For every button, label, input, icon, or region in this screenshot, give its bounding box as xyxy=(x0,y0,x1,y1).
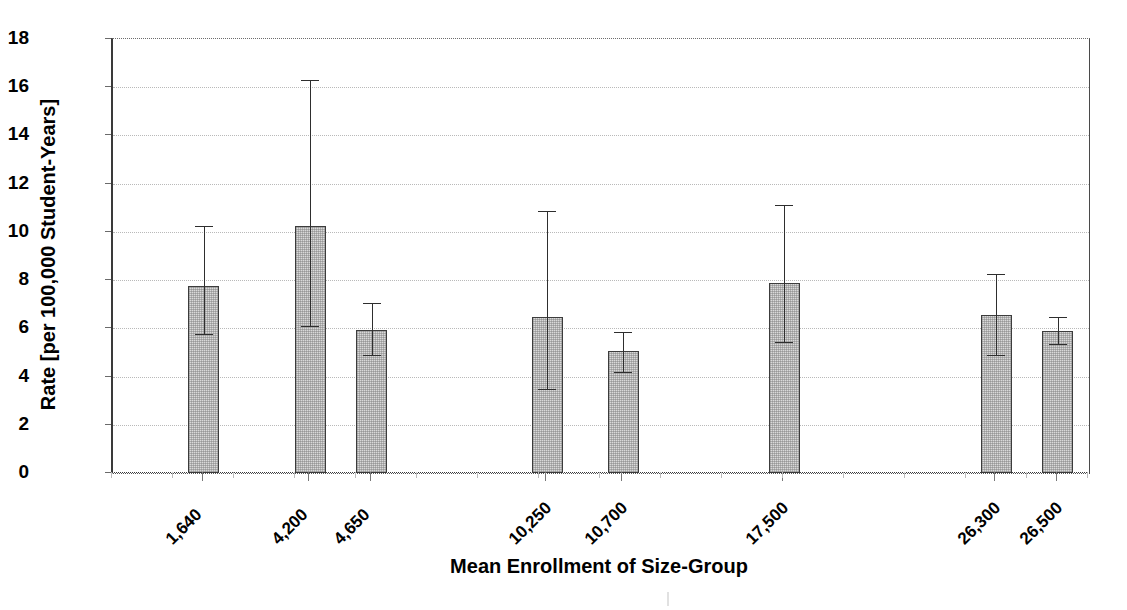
error-bar-cap xyxy=(363,355,381,356)
y-axis-title: Rate [per 100,000 Student-Years] xyxy=(37,25,60,485)
bar-chart: Rate [per 100,000 Student-Years] 0246810… xyxy=(0,0,1127,610)
x-axis-minor-tick xyxy=(599,472,600,478)
error-bar-cap xyxy=(301,80,319,81)
x-tick-label: 10,700 xyxy=(581,498,632,549)
x-axis-minor-tick xyxy=(1026,472,1027,478)
x-tick-mark xyxy=(994,472,995,481)
gridline xyxy=(113,425,1089,426)
error-bar-cap xyxy=(987,355,1005,356)
x-tick-label: 4,650 xyxy=(330,505,374,549)
error-bar-cap xyxy=(1049,317,1067,318)
x-axis-minor-tick xyxy=(233,472,234,478)
error-bar-cap xyxy=(987,274,1005,275)
y-tick-label: 14 xyxy=(0,123,29,145)
x-tick-mark xyxy=(202,472,203,481)
x-tick-mark xyxy=(1056,472,1057,481)
x-axis-minor-tick xyxy=(721,472,722,478)
x-tick-label: 4,200 xyxy=(268,505,312,549)
error-bar-line xyxy=(310,80,311,326)
y-tick-label: 4 xyxy=(0,365,29,387)
error-bar-cap xyxy=(1049,344,1067,345)
error-bar-line xyxy=(623,332,624,372)
y-tick-label: 18 xyxy=(0,27,29,49)
error-bar-cap xyxy=(614,372,632,373)
x-axis-minor-tick xyxy=(1087,472,1088,478)
gridline xyxy=(113,135,1089,136)
error-bar-line xyxy=(784,205,785,341)
x-tick-label: 26,300 xyxy=(954,498,1005,549)
bar xyxy=(1042,331,1073,473)
y-tick-label: 2 xyxy=(0,413,29,435)
x-tick-label: 17,500 xyxy=(742,498,793,549)
x-axis-title: Mean Enrollment of Size-Group xyxy=(111,555,1087,578)
x-axis-minor-tick xyxy=(660,472,661,478)
error-bar-line xyxy=(204,226,205,335)
gridline xyxy=(113,328,1089,329)
error-bar-cap xyxy=(363,303,381,304)
error-bar-cap xyxy=(775,342,793,343)
x-axis-minor-tick xyxy=(416,472,417,478)
x-axis-minor-tick xyxy=(538,472,539,478)
x-axis-minor-tick xyxy=(355,472,356,478)
error-bar-line xyxy=(996,274,997,355)
y-tick-label: 6 xyxy=(0,316,29,338)
y-tick-label: 8 xyxy=(0,268,29,290)
y-tick-label: 16 xyxy=(0,75,29,97)
x-axis-minor-tick xyxy=(172,472,173,478)
y-tick-label: 0 xyxy=(0,461,29,483)
error-bar-cap xyxy=(614,332,632,333)
plot-area xyxy=(111,38,1090,474)
x-axis-minor-tick xyxy=(904,472,905,478)
x-axis-minor-tick xyxy=(782,472,783,478)
scan-artifact xyxy=(667,592,669,606)
x-tick-label: 1,640 xyxy=(162,505,206,549)
error-bar-cap xyxy=(301,326,319,327)
x-tick-mark xyxy=(545,472,546,481)
gridline xyxy=(113,377,1089,378)
x-tick-label: 10,250 xyxy=(505,498,556,549)
error-bar-line xyxy=(1058,317,1059,344)
error-bar-cap xyxy=(775,205,793,206)
x-tick-label: 26,500 xyxy=(1016,498,1067,549)
error-bar-cap xyxy=(195,334,213,335)
x-axis-minor-tick xyxy=(294,472,295,478)
x-axis-minor-tick xyxy=(477,472,478,478)
y-tick-label: 10 xyxy=(0,220,29,242)
x-axis-minor-tick xyxy=(843,472,844,478)
x-tick-mark xyxy=(308,472,309,481)
y-tick-label: 12 xyxy=(0,172,29,194)
error-bar-cap xyxy=(195,226,213,227)
gridline xyxy=(113,280,1089,281)
x-axis-minor-tick xyxy=(111,472,112,478)
error-bar-cap xyxy=(538,211,556,212)
error-bar-line xyxy=(547,211,548,388)
error-bar-cap xyxy=(538,389,556,390)
gridline xyxy=(113,232,1089,233)
gridline xyxy=(113,184,1089,185)
x-axis-minor-tick xyxy=(965,472,966,478)
gridline xyxy=(113,87,1089,88)
x-tick-mark xyxy=(370,472,371,481)
x-tick-mark xyxy=(621,472,622,481)
error-bar-line xyxy=(372,303,373,355)
